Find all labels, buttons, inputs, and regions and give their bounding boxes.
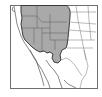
range-map [0, 0, 102, 97]
